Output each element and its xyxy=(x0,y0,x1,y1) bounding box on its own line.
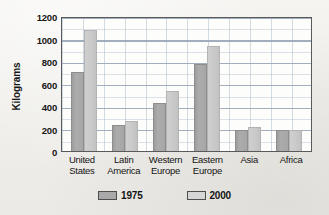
x-axis-label: UnitedStates xyxy=(61,155,103,183)
legend-swatch-icon xyxy=(98,191,117,200)
y-axis-tick-label: 800 xyxy=(42,57,57,68)
x-axis-label-line1: Asia xyxy=(240,154,257,165)
y-axis-tick-labels: 120010008006004002000 xyxy=(22,17,59,152)
y-axis-tick-label: 200 xyxy=(42,124,57,135)
bar-group xyxy=(235,18,261,151)
x-axis-label-line2: America xyxy=(103,166,145,177)
bar-1975 xyxy=(71,72,84,151)
x-axis-label: Africa xyxy=(270,155,312,183)
bar-group xyxy=(153,18,179,151)
x-axis-label-line2: States xyxy=(61,166,103,177)
bar-1975 xyxy=(112,125,125,151)
bar-1975 xyxy=(194,64,207,151)
bar-groups xyxy=(62,18,311,151)
bar-1975 xyxy=(153,103,166,151)
bar-group xyxy=(276,18,302,151)
bar-1975 xyxy=(235,130,248,151)
y-axis-tick-label: 0 xyxy=(52,147,57,158)
x-axis-label-line1: Eastern xyxy=(192,154,223,165)
x-axis-label-line2: Europe xyxy=(186,166,228,177)
legend-label: 2000 xyxy=(210,190,231,201)
legend-swatch-icon xyxy=(187,191,206,200)
bar-1975 xyxy=(276,130,289,151)
y-axis-title: Kilograms xyxy=(9,44,23,128)
x-axis-category-labels: UnitedStatesLatinAmericaWesternEuropeEas… xyxy=(61,155,312,183)
y-axis-tick-label: 400 xyxy=(42,102,57,113)
y-axis-tick-label: 600 xyxy=(42,79,57,90)
x-axis-label-line1: United xyxy=(69,154,95,165)
plot-area xyxy=(61,17,312,152)
x-axis-label-line1: Latin xyxy=(114,154,133,165)
y-axis-tick-label: 1000 xyxy=(37,34,57,45)
x-axis-label: LatinAmerica xyxy=(103,155,145,183)
x-axis-label-line1: Western xyxy=(149,154,182,165)
x-axis-label: WesternEurope xyxy=(145,155,187,183)
x-axis-label: EasternEurope xyxy=(186,155,228,183)
bar-chart: Kilograms 120010008006004002000 UnitedSt… xyxy=(0,0,329,215)
legend-label: 1975 xyxy=(121,190,142,201)
x-axis-label-line2: Europe xyxy=(145,166,187,177)
bar-group xyxy=(194,18,220,151)
legend-item[interactable]: 1975 xyxy=(98,190,142,201)
legend-item[interactable]: 2000 xyxy=(187,190,231,201)
bar-2000 xyxy=(289,130,302,151)
bar-2000 xyxy=(84,30,97,151)
y-axis-title-text: Kilograms xyxy=(11,62,22,110)
bar-group xyxy=(112,18,138,151)
bar-2000 xyxy=(166,91,179,151)
bar-group xyxy=(71,18,97,151)
bar-2000 xyxy=(125,121,138,151)
bar-2000 xyxy=(248,127,261,151)
x-axis-label: Asia xyxy=(228,155,270,183)
chart-legend: 19752000 xyxy=(0,190,329,201)
bar-2000 xyxy=(207,46,220,151)
x-axis-label-line1: Africa xyxy=(280,154,303,165)
y-axis-tick-label: 1200 xyxy=(37,12,57,23)
